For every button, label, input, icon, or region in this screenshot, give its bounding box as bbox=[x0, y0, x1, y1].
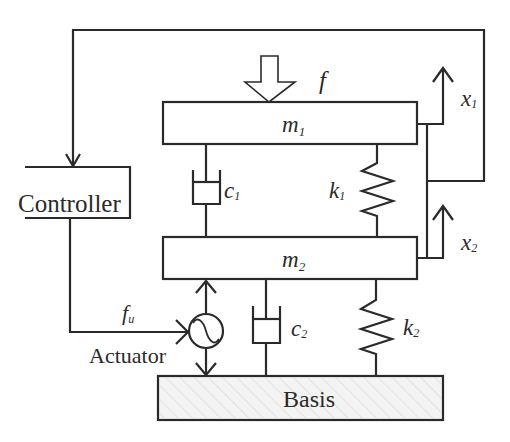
x2-rail bbox=[417, 208, 443, 258]
vibration-isolation-diagram: Controller Actuator Basis m1 m2 f fu c1 … bbox=[0, 0, 510, 442]
displacement-x2-label: x2 bbox=[460, 230, 477, 255]
control-force-fu-label: fu bbox=[122, 300, 134, 326]
spring-k1-label: k1 bbox=[329, 178, 345, 203]
spring-k2-label: k2 bbox=[403, 315, 419, 340]
spring-k2 bbox=[361, 279, 392, 376]
damper-c1 bbox=[193, 144, 220, 237]
sensor-rail bbox=[417, 70, 443, 124]
displacement-x1-label: x1 bbox=[460, 86, 477, 111]
damper-c2 bbox=[253, 279, 280, 376]
actuator-label: Actuator bbox=[89, 343, 167, 368]
actuator bbox=[189, 281, 223, 375]
force-f-label: f bbox=[319, 67, 329, 94]
controller-label: Controller bbox=[18, 190, 121, 217]
spring-k1 bbox=[362, 144, 393, 237]
damper-c2-label: c2 bbox=[291, 316, 307, 341]
damper-c1-label: c1 bbox=[224, 178, 240, 203]
force-arrow-icon bbox=[245, 56, 295, 102]
basis-label: Basis bbox=[283, 386, 335, 412]
